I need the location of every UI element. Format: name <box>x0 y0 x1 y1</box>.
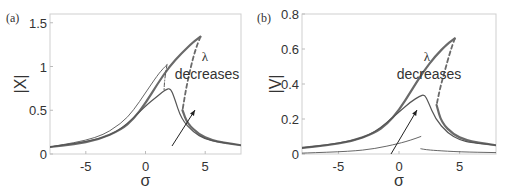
data-series <box>421 149 496 153</box>
series-group <box>302 39 496 154</box>
y-tick-label: 0.6 <box>281 42 299 57</box>
y-tick-label: 1 <box>40 60 47 75</box>
panel-label: (b) <box>257 11 271 25</box>
annotation-lambda: λ <box>202 49 209 64</box>
x-tick-label: -5 <box>80 159 92 174</box>
x-tick-label: -5 <box>333 159 345 174</box>
arrowhead-icon <box>190 110 195 116</box>
x-tick-label: 5 <box>456 159 463 174</box>
y-axis-label: |V| <box>267 75 284 94</box>
chart-panel-b: -50500.20.40.60.8(b)σ|V|λdecreases <box>253 0 507 187</box>
y-tick-label: 0.5 <box>29 103 47 118</box>
annotation-lambda: λ <box>424 49 431 64</box>
x-axis-label: σ <box>141 172 151 187</box>
chart-panel-a: -50500.511.5(a)σ|X|λdecreases <box>0 0 253 187</box>
y-tick-label: 0 <box>40 147 47 162</box>
x-axis-label: σ <box>394 172 404 187</box>
data-series <box>302 137 421 154</box>
y-tick-label: 1.5 <box>29 16 47 31</box>
annotation-text: decreases <box>175 66 240 82</box>
line-chart-a: -50500.511.5(a)σ|X|λdecreases <box>0 0 253 187</box>
data-series <box>50 89 241 147</box>
y-tick-label: 0 <box>292 147 299 162</box>
y-tick-label: 0.2 <box>281 112 299 127</box>
data-series <box>50 37 200 147</box>
data-series <box>164 65 167 91</box>
line-chart-b: -50500.20.40.60.8(b)σ|V|λdecreases <box>253 0 507 187</box>
y-axis-label: |X| <box>12 75 29 94</box>
y-tick-label: 0.8 <box>281 7 299 22</box>
data-series <box>437 105 496 145</box>
data-series <box>302 39 455 148</box>
annotation-text: decreases <box>397 66 462 82</box>
panel-label: (a) <box>6 11 19 25</box>
series-group <box>50 37 241 147</box>
plot-area <box>50 14 241 154</box>
plot-area <box>302 14 496 154</box>
x-tick-label: 5 <box>202 159 209 174</box>
